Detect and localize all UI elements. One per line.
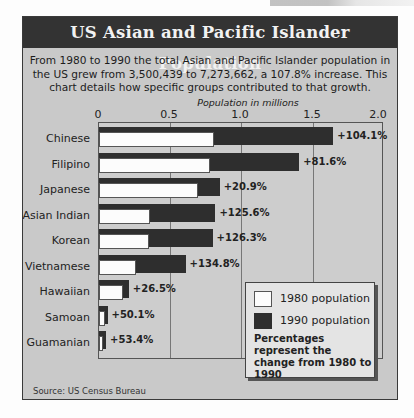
x-tick: 0: [95, 108, 102, 121]
bar-1980: [99, 158, 210, 173]
bar-1980: [99, 260, 136, 275]
percent-change-label: +20.9%: [224, 181, 267, 192]
x-tick: 2.0: [369, 108, 387, 121]
bar-1980: [99, 209, 150, 224]
percent-change-label: +53.4%: [110, 334, 153, 345]
bar-1980: [99, 183, 198, 198]
percent-change-label: +125.6%: [219, 207, 269, 218]
chart-intro: From 1980 to 1990 the total Asian and Pa…: [29, 54, 391, 95]
bar-1980: [99, 285, 123, 300]
legend: 1980 population 1990 population Percenta…: [245, 282, 375, 378]
category-label: Vietnamese: [25, 260, 90, 273]
cropped-page-header: [270, 0, 414, 6]
x-tick: 1.0: [231, 108, 249, 121]
x-axis-title: Population in millions: [163, 97, 333, 108]
category-label: Samoan: [45, 311, 90, 324]
percent-change-label: +126.3%: [217, 232, 267, 243]
bar-1980: [99, 311, 105, 326]
bar-1980: [99, 336, 103, 351]
category-label: Korean: [52, 234, 90, 247]
legend-label-1990: 1990 population: [280, 314, 370, 327]
category-label: Guamanian: [27, 336, 90, 349]
source-credit: Source: US Census Bureau: [33, 386, 146, 396]
percent-change-label: +134.8%: [190, 258, 240, 269]
category-label: Hawaiian: [39, 285, 90, 298]
bar-1980: [99, 234, 149, 249]
x-tick: 0.5: [160, 108, 178, 121]
chart-frame: US Asian and Pacific Islander Population…: [22, 16, 398, 400]
percent-change-label: +104.1%: [337, 130, 387, 141]
bar-1980: [99, 132, 214, 147]
legend-note: Percentages represent the change from 19…: [254, 333, 372, 381]
x-tick: 1.5: [303, 108, 321, 121]
percent-change-label: +50.1%: [112, 309, 155, 320]
legend-label-1980: 1980 population: [280, 292, 370, 305]
percent-change-label: +26.5%: [133, 283, 176, 294]
legend-swatch-1990: [254, 313, 272, 329]
category-label: Chinese: [46, 132, 90, 145]
chart-title: US Asian and Pacific Islander Population: [23, 17, 397, 48]
category-label: Japanese: [40, 183, 90, 196]
category-label: Asian Indian: [23, 209, 91, 222]
category-label: Filipino: [52, 158, 90, 171]
percent-change-label: +81.6%: [303, 156, 346, 167]
legend-swatch-1980: [254, 291, 272, 307]
